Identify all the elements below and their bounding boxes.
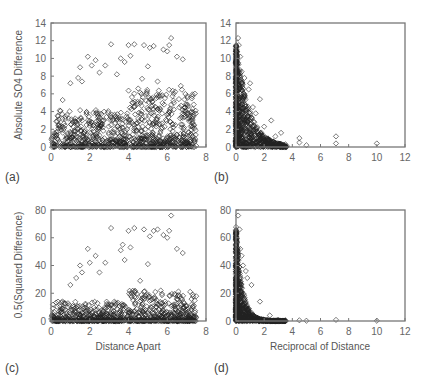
y-tick-label: 10 [35,53,47,64]
data-point-diamond [333,317,338,322]
data-point-diamond [161,47,166,52]
x-tick-label: 4 [126,152,132,163]
y-tick-label: 0 [225,316,231,327]
scatter-points-d [233,213,379,324]
data-point-diamond [174,54,179,59]
data-point-diamond [79,270,84,275]
y-tick-label: 12 [220,35,232,46]
data-point-diamond [77,65,82,70]
y-tick-label: 20 [220,288,232,299]
x-tick-label: 8 [203,326,209,337]
data-point-diamond [118,56,123,61]
data-point-diamond [269,118,274,123]
data-point-diamond [118,248,123,253]
data-point-diamond [97,270,102,275]
y-axis-title-a: Absolute SO4 Difference [13,30,24,140]
y-tick-label: 2 [225,124,231,135]
y-tick-label: 60 [35,232,47,243]
figure-canvas: 0246802468101214 Absolute SO4 Difference… [0,0,429,391]
data-point-diamond [165,49,170,54]
data-point-diamond [156,88,161,93]
data-point-diamond [133,112,138,117]
y-tick-label: 8 [225,71,231,82]
data-point-diamond [126,228,131,233]
panel-label-b: (b) [214,170,229,184]
data-point-diamond [167,43,172,48]
data-point-diamond [145,262,150,267]
y-tick-label: 0 [225,142,231,153]
x-tick-label: 4 [290,152,296,163]
panel-a: 0246802468101214 Absolute SO4 Difference… [5,18,209,185]
x-tick-label: 6 [318,152,324,163]
y-tick-label: 4 [40,106,46,117]
y-tick-label: 40 [220,260,232,271]
data-point-diamond [151,43,156,48]
data-point-diamond [139,76,144,81]
y-axis-title-c: 0.5(Squared Difference) [13,212,24,319]
x-axis-title-d: Reciprocal of Distance [270,341,370,352]
x-tick-label: 10 [371,152,383,163]
data-point-diamond [147,234,152,239]
panel-c: 02468020406080 0.5(Squared Difference) D… [5,205,209,376]
data-point-diamond [108,42,113,47]
data-point-diamond [170,94,175,99]
data-point-diamond [132,225,137,230]
x-tick-label: 8 [346,326,352,337]
data-point-diamond [146,124,151,129]
y-tick-label: 2 [40,124,46,135]
data-point-diamond [169,213,174,218]
x-tick-label: 2 [261,326,267,337]
data-point-diamond [169,35,174,40]
data-point-diamond [153,289,158,294]
panel-label-d: (d) [214,361,229,375]
data-point-diamond [176,97,181,102]
data-point-diamond [246,87,251,92]
data-point-diamond [79,79,84,84]
panel-label-c: (c) [5,361,19,375]
x-tick-label: 12 [399,152,411,163]
data-point-diamond [114,72,119,77]
y-tick-label: 6 [225,88,231,99]
data-point-diamond [77,263,82,268]
plot-frame-d [236,210,405,321]
data-point-diamond [76,75,81,80]
data-point-diamond [174,246,179,251]
data-point-diamond [147,45,152,50]
y-tick-label: 10 [220,53,232,64]
data-point-diamond [128,53,133,58]
data-point-diamond [122,257,127,262]
data-point-diamond [97,70,102,75]
data-point-diamond [161,102,166,107]
x-tick-label: 0 [233,152,239,163]
data-point-diamond [141,43,146,48]
data-point-diamond [267,313,272,318]
y-tick-label: 4 [225,106,231,117]
data-point-diamond [93,58,98,63]
data-point-diamond [253,111,258,116]
data-point-diamond [192,91,197,96]
y-tick-label: 14 [35,18,47,29]
data-point-diamond [247,81,252,86]
plot-frame-b [236,23,405,147]
x-tick-label: 2 [87,326,93,337]
data-point-diamond [68,282,73,287]
data-point-diamond [297,318,302,323]
scatter-points-c [49,213,199,324]
data-point-diamond [85,246,90,251]
panel-label-a: (a) [5,170,20,184]
data-point-diamond [167,228,172,233]
data-point-diamond [155,79,160,84]
data-point-diamond [160,100,165,105]
data-point-diamond [180,250,185,255]
data-point-diamond [249,282,254,287]
data-point-diamond [257,299,262,304]
y-tick-label: 8 [40,71,46,82]
x-tick-label: 2 [261,152,267,163]
data-point-diamond [122,59,127,64]
data-point-diamond [125,126,130,131]
x-tick-label: 10 [371,326,383,337]
y-tick-label: 60 [220,232,232,243]
scatter-points-a [49,35,199,149]
data-point-diamond [93,253,98,258]
data-point-diamond [333,141,338,146]
